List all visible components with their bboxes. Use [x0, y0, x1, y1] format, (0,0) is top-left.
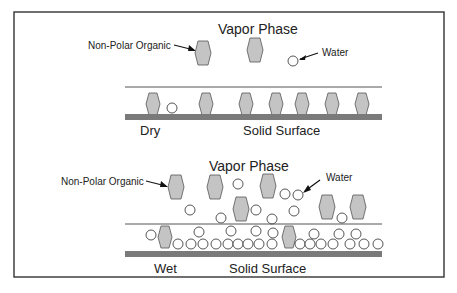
adsorbed-organic-icon — [355, 93, 369, 115]
water-layer — [146, 226, 383, 249]
bottom-solid-surface — [125, 251, 382, 257]
water-molecule-icon — [337, 213, 347, 223]
organic-molecule-icon — [247, 38, 263, 62]
adsorbed-organic-icon — [239, 93, 253, 115]
organic-molecule-icon — [195, 41, 211, 65]
organic-molecule-icon — [207, 175, 223, 199]
water-molecule-icon — [289, 206, 299, 216]
bottom-panel: Vapor Phase Non-Polar Organic Water — [61, 158, 383, 276]
bottom-surface-label: Solid Surface — [229, 261, 306, 276]
adsorbed-water-icon — [167, 103, 177, 113]
top-surface-label: Solid Surface — [243, 123, 320, 138]
organic-molecule-icon — [233, 197, 249, 221]
bottom-title: Vapor Phase — [209, 158, 289, 174]
water-molecule-icon — [293, 190, 303, 200]
adsorbed-organic-icon — [269, 93, 283, 115]
adsorbed-organic-icon — [158, 226, 172, 248]
top-title: Vapor Phase — [218, 21, 298, 37]
bottom-water-label: Water — [326, 172, 353, 183]
water-molecule-icon — [251, 205, 261, 215]
organic-molecule-icon — [260, 174, 276, 198]
water-molecule-icon — [288, 56, 298, 66]
adsorbed-organic-icon — [199, 93, 213, 115]
adsorbed-organic-icon — [295, 93, 309, 115]
water-molecule-icon — [233, 179, 243, 189]
water-molecule-icon — [185, 205, 195, 215]
adsorbed-organic-icon — [146, 93, 160, 115]
bottom-organic-label: Non-Polar Organic — [61, 176, 144, 187]
water-molecule-icon — [267, 214, 277, 224]
top-solid-surface — [125, 114, 382, 120]
organic-molecule-icon — [319, 195, 335, 219]
adsorbed-organic-icon — [325, 93, 339, 115]
top-organic-label: Non-Polar Organic — [88, 40, 171, 51]
adsorbed-organic-icon — [282, 226, 296, 248]
top-water-label: Water — [322, 47, 349, 58]
top-condition-label: Dry — [140, 123, 161, 138]
organic-molecule-icon — [168, 175, 184, 199]
bottom-condition-label: Wet — [154, 261, 177, 276]
water-molecule-icon — [280, 189, 290, 199]
organic-molecule-icon — [350, 195, 366, 219]
frame — [14, 12, 444, 277]
top-panel: Vapor Phase Non-Polar Organic Water Dry … — [88, 21, 382, 138]
adsorption-diagram: Vapor Phase Non-Polar Organic Water Dry … — [0, 0, 457, 293]
water-molecule-icon — [216, 213, 226, 223]
